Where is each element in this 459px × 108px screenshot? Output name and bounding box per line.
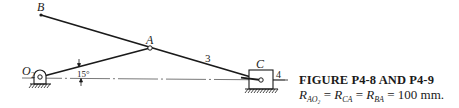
label-o: O [22,64,31,78]
eq-equals-3: = [387,87,394,102]
eq-equals-1: = [324,87,331,102]
figure-equation: RAO₂ = RCA = RBA = 100 mm. [299,87,444,107]
label-c: C [256,57,265,71]
eq-equals-2: = [356,87,363,102]
figure-caption: FIGURE P4-8 AND P4-9 RAO₂ = RCA = RBA = … [299,73,444,107]
eq-term-1-sub: AO₂ [307,95,320,104]
eq-term-1-symbol: R [299,87,307,102]
angle-label: 15° [77,69,90,79]
eq-term-2-sub: CA [342,95,352,104]
figure-title: FIGURE P4-8 AND P4-9 [299,73,444,87]
label-link-4: 4 [276,69,281,80]
label-o-subscript: 2 [31,71,35,80]
eq-term-2-symbol: R [334,87,342,102]
label-a: A [145,33,154,47]
link-2-crank [40,48,150,77]
label-link-3: 3 [205,52,211,64]
eq-value: 100 mm. [398,87,444,102]
eq-term-3-sub: BA [374,95,384,104]
label-b: B [37,0,45,14]
slider-ground-icon [245,89,278,93]
